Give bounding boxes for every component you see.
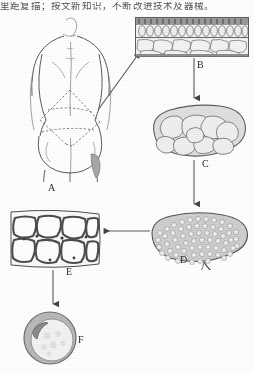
arrow-d-to-e <box>100 226 150 236</box>
panel-f-single-adipocyte: F <box>16 308 90 368</box>
panel-a-label: A <box>48 182 56 193</box>
panel-b-skin-cross-section: B <box>135 17 249 57</box>
figure-page: 里距复描；按文新知识，不断改进技术及器械。 <box>0 0 254 373</box>
arrow-b-to-c <box>189 58 199 102</box>
panel-c-fat-lobule-mass: C <box>148 102 248 160</box>
panel-e-adipocyte-block: E <box>10 208 102 268</box>
page-caption-text: 里距复描；按文新知识，不断改进技术及器械。 <box>0 0 254 13</box>
panel-c-label: C <box>202 158 209 169</box>
panel-f-label: F <box>78 334 84 345</box>
arrow-e-to-f <box>48 270 58 308</box>
panel-d-label: D <box>180 254 188 265</box>
arrow-c-to-d <box>189 160 199 208</box>
panel-d-fine-lobule-mass-with-pedicle: D <box>148 208 252 270</box>
panel-e-label: E <box>66 266 72 277</box>
